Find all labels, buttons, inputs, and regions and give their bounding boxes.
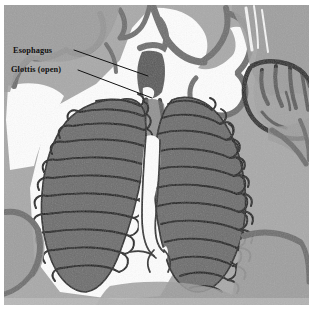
annotation-label-esophagus: Esophagus	[13, 47, 52, 55]
lower-right-body-wall	[230, 236, 309, 306]
bottom-strip	[4, 298, 309, 305]
radiograph-figure: Esophagus Glottis (open)	[0, 0, 315, 310]
annotation-label-glottis: Glottis (open)	[11, 66, 61, 74]
